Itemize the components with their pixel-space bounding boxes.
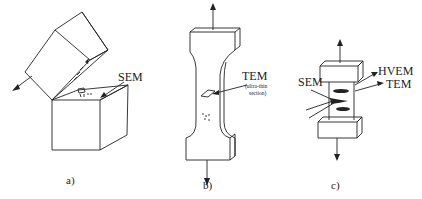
label-tem-b: TEM [242, 69, 268, 83]
insitu-specimen [318, 61, 363, 138]
caption-a: a) [66, 174, 75, 187]
label-section: section) [249, 90, 267, 97]
label-sem-c: SEM [298, 75, 323, 89]
caption-b: b) [203, 179, 213, 192]
panel-c: SEM HVEM TEM c) [298, 39, 414, 192]
pull-arrow-up-c [337, 39, 343, 63]
dislocation-dots [202, 113, 210, 121]
upper-block [25, 12, 108, 100]
lower-cube [52, 85, 128, 150]
label-tem-c: TEM [386, 77, 412, 91]
figure-canvas: SEM a) TEM [0, 0, 422, 199]
sem-arrow-a [100, 82, 124, 98]
fracture-features [74, 58, 91, 97]
label-hvem: HVEM [378, 64, 414, 78]
pull-arrow-left [12, 76, 32, 91]
pull-arrow-down-c [334, 138, 340, 161]
caption-c: c) [331, 179, 340, 192]
panel-b: TEM (ultra-thin section) b) [186, 3, 268, 192]
pull-arrow-up [210, 3, 216, 30]
tem-arrow-b [212, 85, 247, 95]
hvem-arrow [355, 72, 378, 85]
label-sem-a: SEM [118, 70, 143, 84]
sem-beams-c [306, 90, 334, 118]
label-ultra-thin: (ultra-thin [245, 83, 268, 90]
panel-a: SEM a) [12, 12, 143, 187]
grain-features [330, 89, 350, 111]
